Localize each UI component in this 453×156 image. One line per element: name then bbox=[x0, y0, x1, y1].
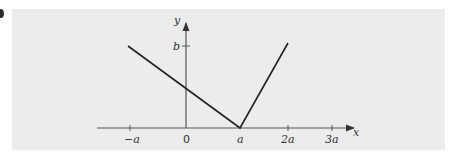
y-tick-label-b: b bbox=[173, 40, 180, 53]
graph-line bbox=[128, 43, 288, 128]
x-tick-label-neg-a: −a bbox=[124, 133, 140, 146]
y-axis-label: y bbox=[173, 14, 181, 27]
x-tick-label-a: a bbox=[237, 133, 244, 146]
x-tick-label-0: 0 bbox=[183, 133, 190, 146]
x-tick-label-2a: 2a bbox=[280, 133, 295, 146]
x-axis-label: x bbox=[353, 126, 360, 139]
x-tick-label-3a: 3a bbox=[325, 133, 339, 146]
graph-plot: y b x −a 0 a 2a 3a bbox=[0, 0, 453, 156]
